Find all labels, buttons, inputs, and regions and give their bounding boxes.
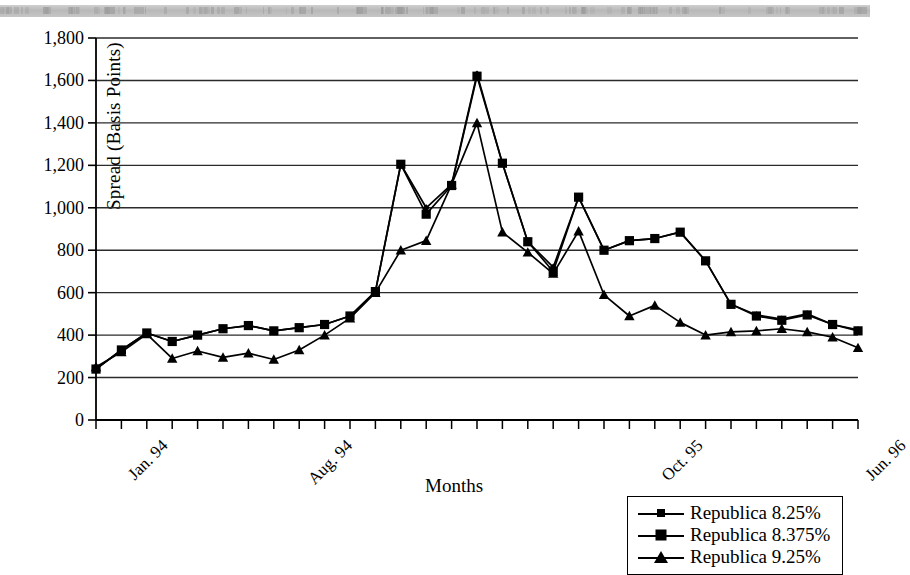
data-point-square: [244, 321, 253, 330]
x-axis-title: Months: [425, 475, 483, 497]
data-point-square: [523, 237, 532, 246]
series-diamond: [92, 70, 861, 372]
data-point-triangle: [294, 345, 304, 354]
data-point-triangle: [853, 343, 863, 352]
data-point-square: [701, 256, 710, 265]
data-point-square: [828, 320, 837, 329]
legend-label: Republica 8.375%: [684, 524, 830, 546]
data-point-square: [498, 159, 507, 168]
data-point-square: [396, 160, 405, 169]
legend-label: Republica 9.25%: [684, 546, 821, 568]
data-point-square: [599, 246, 608, 255]
data-point-square: [676, 228, 685, 237]
data-point-triangle: [243, 348, 253, 357]
data-point-triangle: [599, 290, 609, 299]
data-point-square: [650, 234, 659, 243]
data-point-triangle: [650, 300, 660, 309]
legend-item: Republica 9.25%: [638, 546, 830, 568]
data-point-square: [422, 210, 431, 219]
series-square: [91, 72, 862, 374]
legend-marker-diamond-icon: [638, 503, 684, 523]
data-point-square: [726, 300, 735, 309]
legend-item: Republica 8.375%: [638, 524, 830, 546]
legend-marker-triangle-icon: [638, 547, 684, 567]
data-point-square: [168, 337, 177, 346]
data-point-square: [777, 316, 786, 325]
data-point-square: [803, 310, 812, 319]
data-point-square: [472, 72, 481, 81]
data-point-square: [625, 236, 634, 245]
data-point-triangle: [675, 317, 685, 326]
data-point-triangle: [421, 235, 431, 244]
data-point-square: [295, 323, 304, 332]
series-line: [96, 123, 858, 367]
data-point-square: [269, 326, 278, 335]
data-point-square: [853, 326, 862, 335]
data-point-square: [218, 324, 227, 333]
data-point-triangle: [573, 226, 583, 235]
data-point-square: [320, 320, 329, 329]
data-point-triangle: [192, 346, 202, 355]
data-point-square: [193, 331, 202, 340]
legend-marker-square-icon: [638, 525, 684, 545]
data-point-square: [752, 311, 761, 320]
data-point-square: [574, 193, 583, 202]
data-point-triangle: [497, 227, 507, 236]
chart-legend: Republica 8.25%Republica 8.375%Republica…: [627, 496, 843, 575]
legend-item: Republica 8.25%: [638, 502, 830, 524]
legend-label: Republica 8.25%: [684, 502, 821, 524]
